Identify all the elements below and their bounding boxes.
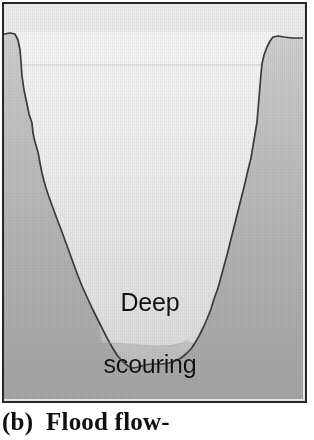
figure-flood-flow-cross-section: Deep scouring (b) Flood flow-: [0, 0, 314, 440]
annotation-line-2: scouring: [80, 349, 220, 380]
channel-cross-section-image: Deep scouring: [2, 2, 307, 403]
annotation-line-1: Deep: [80, 287, 220, 318]
figure-caption: (b) Flood flow-: [2, 408, 312, 436]
deep-scouring-annotation: Deep scouring: [80, 256, 220, 403]
